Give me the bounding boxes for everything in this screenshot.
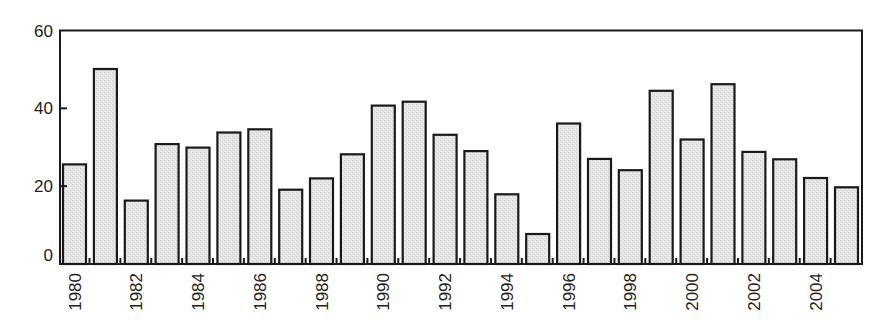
bar-1995 (526, 234, 549, 264)
x-tick-label: 2002 (745, 273, 764, 311)
y-tick-label: 0 (44, 246, 53, 265)
bar-2001 (712, 84, 735, 264)
bar-2004 (804, 178, 827, 264)
x-tick-label: 2004 (807, 273, 826, 311)
y-tick-label: 60 (34, 22, 53, 41)
x-tick-label: 1980 (66, 273, 85, 311)
x-tick-label: 1998 (621, 273, 640, 311)
y-tick-label: 20 (34, 177, 53, 196)
bar-1991 (403, 102, 426, 264)
x-tick-label: 1994 (498, 273, 517, 311)
y-tick-label: 40 (34, 99, 53, 118)
bar-1987 (279, 190, 302, 264)
bar-1999 (650, 91, 673, 264)
bar-1994 (495, 194, 518, 264)
bar-1981 (94, 69, 117, 264)
bar-2000 (681, 140, 704, 265)
bar-1996 (557, 124, 580, 265)
bar-1989 (341, 154, 364, 264)
bar-1983 (156, 144, 179, 264)
bar-1997 (588, 159, 611, 264)
bar-1985 (217, 133, 240, 265)
x-tick-label: 1990 (374, 273, 393, 311)
x-tick-label: 1988 (313, 273, 332, 311)
bar-1992 (434, 135, 457, 264)
bar-2005 (835, 187, 858, 264)
bar-2002 (742, 152, 765, 264)
bars-group (63, 69, 858, 264)
bar-1982 (125, 201, 148, 264)
bar-chart: 0204060 19801982198419861988199019921994… (0, 0, 889, 332)
bar-1980 (63, 164, 86, 264)
x-tick-label: 1996 (560, 273, 579, 311)
x-tick-label: 1984 (189, 273, 208, 311)
bar-1988 (310, 178, 333, 264)
x-tick-label: 2000 (683, 273, 702, 311)
x-tick-label: 1986 (251, 273, 270, 311)
bar-2003 (773, 159, 796, 264)
x-tick-label: 1992 (436, 273, 455, 311)
bar-1986 (248, 129, 271, 264)
bar-1984 (187, 148, 210, 264)
bar-1993 (464, 151, 487, 264)
x-tick-label: 1982 (127, 273, 146, 311)
bar-1998 (619, 170, 642, 264)
bar-1990 (372, 106, 395, 264)
x-axis-labels: 1980198219841986198819901992199419961998… (66, 273, 826, 311)
